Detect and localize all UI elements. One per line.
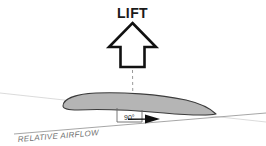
- lift-diagram: 90° LIFT RELATIVE AIRFLOW: [0, 0, 266, 146]
- airfoil: [63, 93, 216, 115]
- lift-arrow: [109, 23, 156, 67]
- lift-label: LIFT: [117, 5, 148, 21]
- relative-airflow-line: [14, 113, 266, 134]
- diagram-canvas: 90° LIFT RELATIVE AIRFLOW: [0, 0, 266, 146]
